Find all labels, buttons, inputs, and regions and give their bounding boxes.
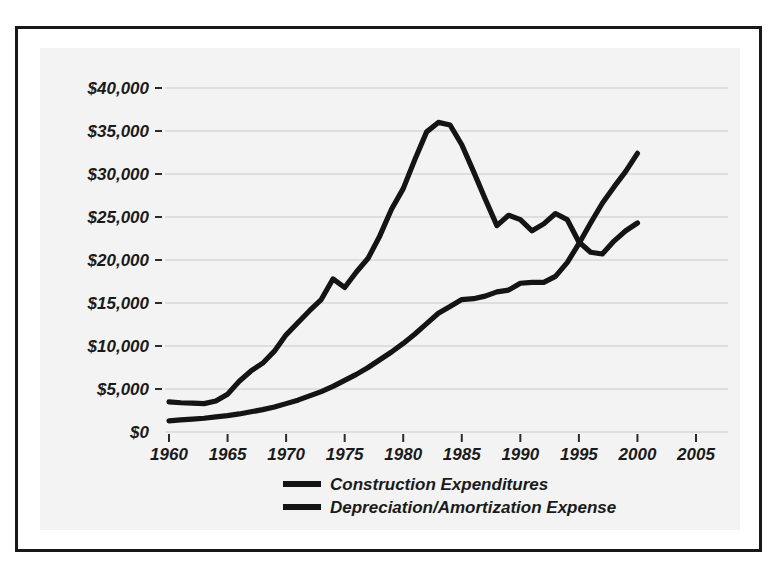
x-axis-tick-label: 1965 bbox=[209, 445, 247, 464]
x-axis-tick-label: 1980 bbox=[384, 445, 422, 464]
y-axis-tick-label: $5,000 bbox=[96, 380, 150, 399]
x-axis-tick-label: 1960 bbox=[150, 445, 188, 464]
x-axis-tick-label: 1970 bbox=[267, 445, 305, 464]
x-axis-tick-label: 1990 bbox=[501, 445, 539, 464]
x-axis-tick-label: 1985 bbox=[443, 445, 481, 464]
y-axis-tick-label: $15,000 bbox=[87, 294, 150, 313]
chart-plot-panel: $0$5,000$10,000$15,000$20,000$25,000$30,… bbox=[40, 48, 740, 530]
line-chart-svg: $0$5,000$10,000$15,000$20,000$25,000$30,… bbox=[40, 48, 740, 530]
y-axis-tick-label: $0 bbox=[129, 423, 149, 442]
chart-page: $0$5,000$10,000$15,000$20,000$25,000$30,… bbox=[0, 0, 779, 569]
legend-label-construction-expenditures: Construction Expenditures bbox=[330, 475, 548, 494]
legend-label-depreciation-amortization-expense: Depreciation/Amortization Expense bbox=[330, 498, 616, 517]
x-axis-tick-label: 1975 bbox=[326, 445, 364, 464]
y-axis-tick-label: $20,000 bbox=[87, 251, 150, 270]
x-axis-tick-labels: 1960196519701975198019851990199520002005 bbox=[150, 434, 715, 464]
y-axis-tick-label: $40,000 bbox=[87, 79, 150, 98]
y-axis-tick-label: $10,000 bbox=[87, 337, 150, 356]
y-axis-tick-label: $25,000 bbox=[87, 208, 150, 227]
x-axis-tick-label: 1995 bbox=[560, 445, 598, 464]
y-axis-tick-label: $30,000 bbox=[87, 165, 150, 184]
x-axis-tick-label: 2000 bbox=[618, 445, 657, 464]
y-axis-tick-label: $35,000 bbox=[87, 122, 150, 141]
y-axis-tick-labels: $0$5,000$10,000$15,000$20,000$25,000$30,… bbox=[87, 79, 150, 442]
x-axis-tick-label: 2005 bbox=[676, 445, 715, 464]
chart-legend: Construction ExpendituresDepreciation/Am… bbox=[283, 475, 616, 517]
data-series-group bbox=[169, 122, 637, 420]
